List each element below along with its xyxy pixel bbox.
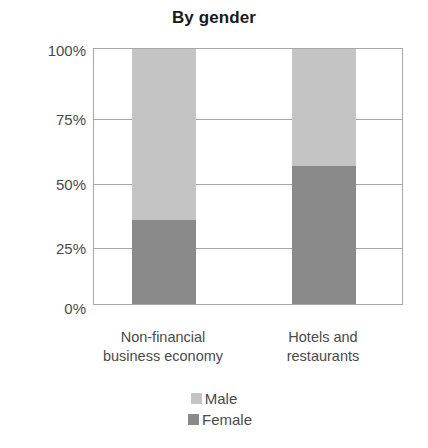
bar-segment-female — [132, 220, 196, 304]
chart-legend: Male Female — [0, 388, 428, 430]
bar-hotels-and-restaurants — [292, 49, 356, 304]
category-label-line: Non-financial — [88, 328, 238, 347]
legend-label-female: Female — [202, 412, 252, 427]
category-axis: Non-financial business economy Hotels an… — [93, 328, 403, 374]
y-tick-label-25: 25% — [6, 241, 86, 256]
legend-swatch-male-icon — [191, 393, 202, 404]
y-tick-label-50: 50% — [6, 177, 86, 192]
y-tick-label-0: 0% — [6, 301, 86, 316]
plot-area — [93, 48, 403, 305]
y-tick-label-100: 100% — [6, 43, 86, 58]
bar-segment-male — [132, 49, 196, 220]
category-label-line: business economy — [88, 347, 238, 366]
gender-stacked-bar-chart: By gender 100% 75% 50% 25% 0% Non-financ… — [0, 0, 428, 448]
category-label-line: restaurants — [248, 347, 398, 366]
category-label-line: Hotels and — [248, 328, 398, 347]
legend-item-female: Female — [0, 409, 428, 430]
y-axis: 100% 75% 50% 25% 0% — [0, 0, 86, 448]
legend-label-male: Male — [205, 391, 238, 406]
category-label-hotels-and-restaurants: Hotels and restaurants — [248, 328, 398, 366]
y-tick-label-75: 75% — [6, 112, 86, 127]
category-label-non-financial-business-economy: Non-financial business economy — [88, 328, 238, 366]
bar-segment-male — [292, 49, 356, 166]
bar-non-financial-business-economy — [132, 49, 196, 304]
bar-segment-female — [292, 166, 356, 304]
legend-swatch-female-icon — [188, 414, 199, 425]
legend-item-male: Male — [0, 388, 428, 409]
